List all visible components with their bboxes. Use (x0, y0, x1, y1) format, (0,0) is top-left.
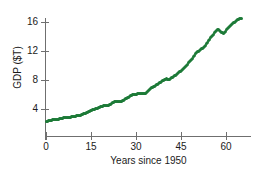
data-point (92, 108, 95, 111)
data-point (107, 104, 110, 107)
data-point (233, 21, 236, 24)
data-point (131, 93, 134, 96)
data-point (65, 116, 68, 119)
data-point (80, 113, 83, 116)
data-point (205, 42, 208, 45)
data-point (222, 32, 225, 35)
data-point (82, 112, 85, 115)
data-point (153, 85, 156, 88)
x-tick-label-60: 60 (214, 141, 238, 152)
data-point (62, 116, 65, 119)
data-point (175, 73, 178, 76)
data-point (57, 118, 60, 121)
data-point (84, 112, 87, 115)
data-point (112, 101, 115, 104)
data-point (133, 93, 136, 96)
data-point (75, 114, 78, 117)
data-point (129, 94, 132, 97)
data-point (139, 92, 142, 95)
data-point (109, 103, 112, 106)
data-point (120, 100, 123, 103)
data-point (202, 46, 205, 49)
x-tick-30 (136, 132, 137, 140)
y-tick-16 (41, 22, 49, 23)
data-point (212, 33, 215, 36)
data-point (199, 48, 202, 51)
data-point (60, 117, 63, 120)
data-point (81, 113, 84, 116)
data-point (225, 28, 228, 31)
data-point (99, 105, 102, 108)
data-point (108, 103, 111, 106)
data-point (155, 83, 158, 86)
data-point (226, 27, 229, 30)
data-point (149, 87, 152, 90)
data-point (235, 19, 238, 22)
data-point (140, 92, 143, 95)
data-point (237, 18, 240, 21)
data-point (93, 108, 96, 111)
data-point (52, 118, 55, 121)
data-point (210, 35, 213, 38)
data-point (130, 94, 133, 97)
y-tick-8 (41, 80, 49, 81)
data-point (160, 80, 163, 83)
data-point (167, 78, 170, 81)
data-point (156, 83, 159, 86)
data-point (216, 28, 219, 31)
y-tick-label-16: 16 (22, 17, 38, 27)
data-point (159, 81, 162, 84)
data-point (119, 100, 122, 103)
data-point (136, 92, 139, 95)
data-point (214, 30, 217, 33)
data-point (117, 100, 120, 103)
data-point (192, 55, 195, 58)
data-point (232, 21, 235, 24)
x-tick-label-0: 0 (34, 141, 58, 152)
data-point (89, 109, 92, 112)
data-point (106, 104, 109, 107)
data-point (213, 31, 216, 34)
data-point (150, 86, 153, 89)
data-point (145, 91, 148, 94)
x-axis-line (46, 136, 251, 137)
data-point (138, 92, 141, 95)
data-point (230, 23, 233, 26)
data-point (142, 92, 145, 95)
data-point (146, 90, 149, 93)
data-point (170, 76, 173, 79)
data-point (209, 36, 212, 39)
data-point (135, 93, 138, 96)
data-point (70, 115, 73, 118)
data-point (162, 79, 165, 82)
y-tick-label-4: 4 (22, 104, 38, 114)
data-point (221, 31, 224, 34)
x-tick-label-45: 45 (169, 141, 193, 152)
data-point (224, 30, 227, 33)
data-point (71, 115, 74, 118)
x-tick-label-30: 30 (124, 141, 148, 152)
data-point (91, 108, 94, 111)
data-point (207, 39, 210, 42)
data-point (100, 105, 103, 108)
data-point (231, 22, 234, 25)
data-point (188, 60, 191, 63)
data-point (168, 78, 171, 81)
data-point (171, 76, 174, 79)
data-point (197, 50, 200, 53)
data-point (90, 109, 93, 112)
data-point (66, 116, 69, 119)
data-point (121, 99, 124, 102)
data-point (223, 31, 226, 34)
data-point (163, 78, 166, 81)
data-point (229, 24, 232, 27)
y-tick-label-12: 12 (22, 46, 38, 56)
data-point (114, 100, 117, 103)
data-point (228, 25, 231, 28)
data-point (172, 75, 175, 78)
y-tick-label-8: 8 (22, 75, 38, 85)
data-point (85, 111, 88, 114)
data-point (125, 97, 128, 100)
data-point (147, 89, 150, 92)
data-point (194, 52, 197, 55)
